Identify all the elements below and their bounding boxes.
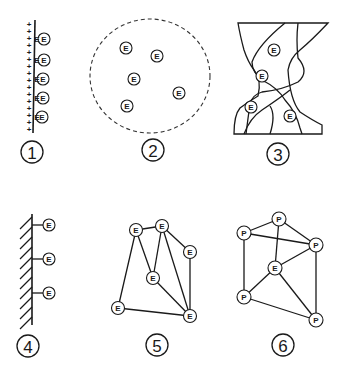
svg-text:E: E <box>287 112 293 121</box>
panel-2: E E E E E 2 <box>90 19 210 161</box>
svg-text:E: E <box>46 221 52 230</box>
svg-text:E: E <box>187 312 193 321</box>
panel-4: E E E 4 <box>17 214 55 357</box>
svg-text:E: E <box>115 304 121 313</box>
panel-3: E E E E 3 <box>234 23 328 165</box>
plus-charges: + + + + + + + + + + + + + + + + <box>27 20 32 134</box>
svg-text:E: E <box>46 289 52 298</box>
svg-text:P: P <box>313 241 319 250</box>
panel-1: + + + + + + + + + + + + + + + + E E E E … <box>21 20 50 164</box>
svg-text:E: E <box>131 75 137 84</box>
svg-text:E: E <box>41 35 47 44</box>
svg-text:E: E <box>34 56 40 65</box>
panel-label-6: 6 <box>278 337 287 356</box>
svg-text:P: P <box>241 293 247 302</box>
svg-text:E: E <box>40 94 46 103</box>
svg-text:E: E <box>248 103 254 112</box>
svg-text:E: E <box>123 44 129 53</box>
svg-text:E: E <box>159 222 165 231</box>
svg-text:E: E <box>39 113 45 122</box>
svg-text:E: E <box>271 46 277 55</box>
dashed-boundary <box>90 19 210 133</box>
svg-text:P: P <box>313 316 319 325</box>
svg-text:E: E <box>34 35 40 44</box>
panel-5: E E E E E E 5 <box>112 220 197 357</box>
svg-text:E: E <box>34 113 40 122</box>
svg-text:E: E <box>34 94 40 103</box>
svg-text:E: E <box>176 89 182 98</box>
panel-label-5: 5 <box>152 337 161 356</box>
svg-text:E: E <box>34 75 40 84</box>
svg-text:E: E <box>187 248 193 257</box>
svg-text:E: E <box>150 274 156 283</box>
panel-label-3: 3 <box>273 146 282 165</box>
svg-text:E: E <box>40 75 46 84</box>
svg-text:E: E <box>259 72 265 81</box>
adsorbed-enzymes: E E E E E E E E E E <box>34 33 50 123</box>
svg-text:P: P <box>241 229 247 238</box>
svg-text:E: E <box>46 255 52 264</box>
fiber-d <box>270 106 273 134</box>
panel-label-2: 2 <box>148 142 157 161</box>
svg-text:P: P <box>276 215 282 224</box>
svg-text:E: E <box>133 226 139 235</box>
panel-label-4: 4 <box>23 338 32 357</box>
svg-text:+: + <box>27 125 32 134</box>
panel-label-1: 1 <box>27 144 36 163</box>
svg-text:E: E <box>124 102 130 111</box>
svg-text:E: E <box>154 52 160 61</box>
svg-text:E: E <box>41 56 47 65</box>
hatching <box>20 217 32 329</box>
panel-6: P P P E P P 6 <box>237 212 323 356</box>
svg-text:E: E <box>272 264 278 273</box>
immobilization-diagram: + + + + + + + + + + + + + + + + E E E E … <box>0 0 344 371</box>
